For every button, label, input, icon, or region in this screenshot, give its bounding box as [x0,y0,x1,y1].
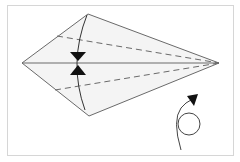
turn-over-icon [177,94,201,150]
origami-diagram [0,0,240,162]
